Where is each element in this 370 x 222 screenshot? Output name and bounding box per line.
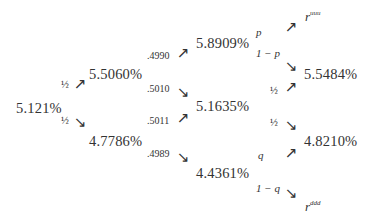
arrow-down-icon: ↘ <box>285 59 298 74</box>
node-dd-rate: 4.4361% <box>196 166 249 181</box>
arrow-up-icon: ↗ <box>177 46 190 61</box>
prob-uu: .4990 <box>147 51 170 61</box>
arrow-up-icon: ↗ <box>177 111 190 126</box>
prob-mid-up: ½ <box>270 86 278 97</box>
arrow-down-icon: ↘ <box>285 118 298 133</box>
arrow-up-icon: ↗ <box>285 80 298 95</box>
prob-dd: .4989 <box>147 149 170 159</box>
arrow-down-icon: ↘ <box>177 85 190 100</box>
node-uuu-rate: ruuu <box>305 10 321 23</box>
prob-uud: 1 − p <box>256 48 280 59</box>
prob-root-up: ½ <box>61 80 69 91</box>
prob-uuu: p <box>256 27 262 38</box>
arrow-up-icon: ↗ <box>285 146 298 161</box>
node-udd-rate: 4.8210% <box>304 134 357 149</box>
node-u-rate: 5.5060% <box>89 67 142 82</box>
node-uud-rate: 5.5484% <box>304 67 357 82</box>
prob-ddd: 1 − q <box>256 183 280 194</box>
prob-root-down: ½ <box>61 116 69 127</box>
arrow-down-icon: ↘ <box>177 150 190 165</box>
arrow-up-icon: ↗ <box>285 20 298 35</box>
arrow-down-icon: ↘ <box>74 115 87 130</box>
prob-mid-down: ½ <box>270 118 278 129</box>
prob-ud: .5010 <box>147 84 170 94</box>
node-ddd-rate: rddd <box>305 200 321 213</box>
prob-du: .5011 <box>147 116 169 126</box>
node-uu-rate: 5.8909% <box>196 36 249 51</box>
node-ud-rate: 5.1635% <box>196 99 249 114</box>
node-d-rate: 4.7786% <box>89 134 142 149</box>
prob-ddu: q <box>258 150 264 161</box>
arrow-up-icon: ↗ <box>74 77 87 92</box>
node-root-rate: 5.121% <box>16 101 62 116</box>
arrow-down-icon: ↘ <box>285 186 298 201</box>
